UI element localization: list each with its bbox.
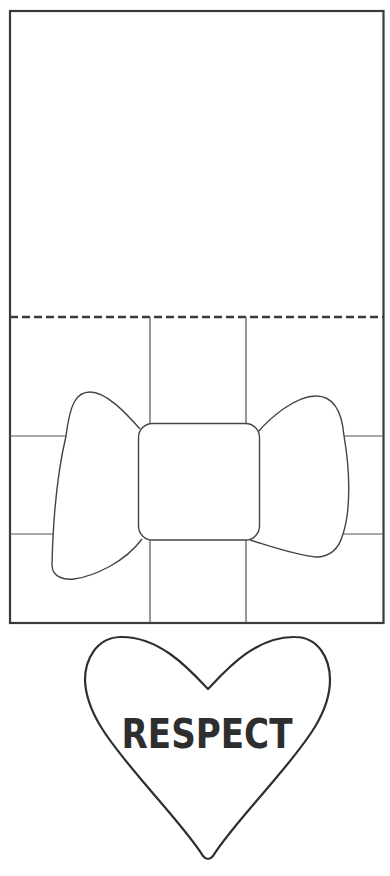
- craft-template-drawing: RESPECT: [0, 0, 390, 876]
- bow-right-wing: [250, 396, 349, 557]
- bow-left-wing: [52, 392, 142, 579]
- heart-label: RESPECT: [122, 711, 294, 757]
- bow: [52, 392, 349, 579]
- bow-knot: [139, 424, 260, 541]
- craft-template-page: RESPECT: [0, 0, 390, 876]
